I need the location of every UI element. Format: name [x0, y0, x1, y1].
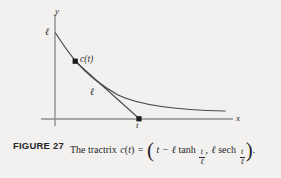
x-axis-t-label: t [136, 121, 139, 130]
tractrix-curve [56, 33, 226, 111]
big-open-paren: ( [147, 143, 154, 159]
y-axis-label: y [55, 7, 59, 16]
tangent-segment-ell-label: ℓ [90, 87, 94, 97]
x-axis-label: x [236, 114, 240, 123]
figure-container: y x ℓ t c(t) ℓ FIGURE 27 The tractrix c(… [0, 0, 281, 178]
tanh-function-name: tanh [178, 144, 195, 155]
minus-sign: − [163, 144, 169, 155]
sech-function-name: sech [218, 144, 236, 155]
figure-caption-text: The tractrix c(t) = ( t − ℓ tanh t ℓ , ℓ… [64, 133, 255, 166]
ell-symbol-x-component: ℓ [172, 144, 176, 155]
fraction-denominator: ℓ [240, 158, 245, 166]
tangent-segment [76, 62, 139, 119]
figure-number-tag: FIGURE 27 [13, 133, 64, 151]
ell-symbol-y-component: ℓ [212, 144, 216, 155]
fraction-t-over-ell-sech: t ℓ [240, 148, 245, 167]
equals-sign: = [138, 144, 144, 155]
figure-caption: FIGURE 27 The tractrix c(t) = ( t − ℓ ta… [13, 133, 275, 173]
fraction-denominator: ℓ [199, 158, 204, 166]
function-arg-close-paren: ) [131, 144, 134, 155]
component-separator-comma: , [206, 144, 209, 155]
point-label-c-of-t: c(t) [80, 55, 93, 65]
big-close-paren: ) [246, 143, 253, 159]
fraction-t-over-ell-tanh: t ℓ [199, 148, 204, 167]
caption-lead-text: The tractrix [70, 144, 117, 155]
x-component-variable: t [156, 144, 159, 155]
plot-area: y x ℓ t c(t) ℓ [0, 0, 281, 132]
caption-end-period: . [253, 144, 256, 155]
fraction-numerator: t [240, 148, 244, 156]
y-intercept-ell-label: ℓ [45, 27, 49, 37]
point-c-of-t [73, 59, 78, 64]
fraction-numerator: t [200, 148, 204, 156]
